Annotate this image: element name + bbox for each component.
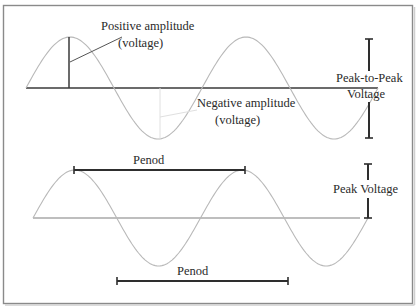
- frame-border: [4, 6, 413, 304]
- period-label-lower: Penod: [177, 264, 209, 278]
- sine-wave-diagram: Positive amplitude (voltage) Negative am…: [0, 0, 416, 307]
- positive-amplitude-label-line2: (voltage): [118, 36, 163, 50]
- negative-amplitude-label-line2: (voltage): [215, 113, 260, 127]
- negative-amplitude-label-line1: Negative amplitude: [197, 96, 296, 110]
- period-label-upper: Penod: [133, 153, 165, 167]
- peak-to-peak-label-line2: Voltage: [347, 87, 385, 101]
- peak-voltage-label: Peak Voltage: [333, 182, 399, 196]
- peak-to-peak-label-line1: Peak-to-Peak: [336, 71, 403, 85]
- positive-amplitude-label-line1: Positive amplitude: [101, 19, 195, 33]
